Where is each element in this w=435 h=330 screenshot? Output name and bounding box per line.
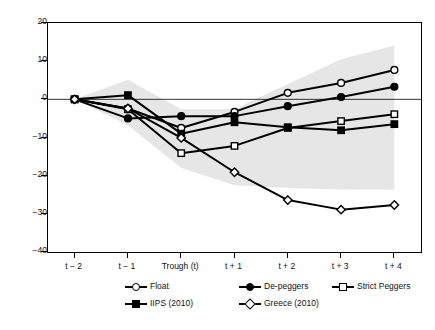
legend-row: FloatDe-peggersStrict Peggers [47, 282, 422, 298]
legend-item-greece-2010[interactable]: Greece (2010) [239, 299, 319, 309]
x-tick-mark [287, 253, 288, 258]
legend-row: IIPS (2010)Greece (2010) [47, 299, 422, 315]
data-point-marker [338, 94, 345, 101]
data-point-marker [391, 121, 397, 127]
x-tick-label: t − 2 [65, 261, 82, 271]
filled-square-icon [132, 300, 140, 308]
x-tick-label: t + 2 [278, 261, 295, 271]
x-tick-label: t + 4 [385, 261, 402, 271]
legend-swatch [239, 299, 261, 309]
data-point-marker [338, 127, 344, 133]
legend-label: Strict Peggers [357, 282, 410, 292]
open-circle-icon [132, 283, 140, 291]
open-diamond-icon [244, 298, 255, 309]
data-point-marker [231, 143, 237, 149]
legend-swatch [332, 282, 354, 292]
legend-swatch [125, 282, 147, 292]
x-tick-mark [74, 253, 75, 258]
chart-container: 20100−10−20−30−40 t − 2t − 1Trough (t)t … [0, 0, 435, 330]
legend-swatch [239, 282, 261, 292]
x-tick-mark [127, 253, 128, 258]
data-point-marker [231, 119, 237, 125]
data-point-marker [125, 115, 132, 122]
y-axis: 20100−10−20−30−40 [0, 0, 47, 275]
x-tick-mark [234, 253, 235, 258]
data-point-marker [391, 111, 397, 117]
plot-svg [48, 23, 421, 252]
plot-area [47, 22, 422, 253]
data-point-marker [178, 113, 185, 120]
legend-label: De-peggers [264, 282, 308, 292]
data-point-marker [125, 92, 131, 98]
data-point-marker [285, 124, 291, 130]
x-tick-mark [340, 253, 341, 258]
legend-swatch [125, 299, 147, 309]
data-point-marker [337, 205, 345, 213]
x-axis: t − 2t − 1Trough (t)t + 1t + 2t + 3t + 4 [47, 253, 422, 277]
data-point-marker [338, 80, 345, 87]
x-tick-label: t + 3 [332, 261, 349, 271]
data-point-marker [391, 67, 398, 74]
data-point-marker [338, 118, 344, 124]
legend-label: Float [150, 282, 169, 292]
x-tick-mark [180, 253, 181, 258]
x-tick-mark [393, 253, 394, 258]
legend-label: IIPS (2010) [150, 299, 193, 309]
x-tick-label: t + 1 [225, 261, 242, 271]
data-point-marker [390, 201, 398, 209]
filled-circle-icon [246, 283, 254, 291]
open-square-icon [339, 283, 347, 291]
data-point-marker [391, 83, 398, 90]
x-tick-label: Trough (t) [162, 261, 199, 271]
chart-legend: FloatDe-peggersStrict Peggers IIPS (2010… [47, 282, 422, 322]
legend-item-float[interactable]: Float [125, 282, 169, 292]
legend-item-de-peggers[interactable]: De-peggers [239, 282, 308, 292]
legend-item-strict-peggers[interactable]: Strict Peggers [332, 282, 410, 292]
legend-item-iips-2010[interactable]: IIPS (2010) [125, 299, 193, 309]
x-tick-label: t − 1 [119, 261, 136, 271]
data-point-marker [284, 103, 291, 110]
legend-label: Greece (2010) [264, 299, 319, 309]
data-point-marker [284, 89, 291, 96]
data-point-marker [178, 150, 184, 156]
data-point-marker [284, 196, 292, 204]
